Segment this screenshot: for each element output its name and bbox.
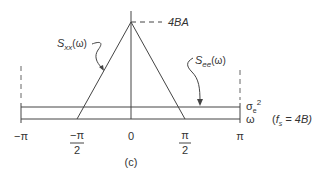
noise-level-label: σe2 (246, 98, 262, 114)
noise-label: See(ω) (195, 54, 226, 69)
tick-label-zero: 0 (128, 130, 134, 142)
sampling-note: (fs = 4B) (272, 113, 312, 127)
tick-label-neg-pi: −π (14, 130, 28, 142)
signal-pointer-arrow (92, 42, 102, 68)
signal-label: Sxx(ω) (57, 37, 87, 52)
tick-label-pi-over-2-den: 2 (182, 144, 188, 156)
peak-label: 4BA (168, 16, 189, 28)
arrowhead-icon (197, 99, 203, 106)
tick-label-pi: π (236, 130, 244, 142)
axis-label: ω (246, 113, 255, 125)
tick-label-pi-over-2-num: π (181, 129, 189, 141)
tick-label-neg-pi-over-2-den: 2 (74, 144, 80, 156)
figure-caption: (c) (125, 156, 138, 168)
psd-diagram: 4BA Sxx(ω) See(ω) σe2 ω (fs = 4B) −π −π … (0, 0, 328, 177)
tick-label-neg-pi-over-2-num: −π (70, 129, 84, 141)
